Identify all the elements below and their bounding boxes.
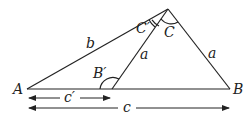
triangle-diagram: A B b a a C′ C B′ c′ c	[0, 0, 252, 119]
angle-arc-c-prime	[149, 20, 155, 27]
dimension-label-c-prime: c′	[64, 89, 76, 105]
vertex-label-b: B	[232, 81, 243, 97]
angle-label-c: C	[164, 24, 175, 40]
side-a-outer	[168, 9, 230, 89]
dimension-label-c: c	[123, 99, 131, 115]
side-label-a-inner: a	[140, 46, 148, 62]
angle-label-b-prime: B′	[92, 65, 107, 81]
side-label-b: b	[86, 35, 95, 51]
vertex-label-a: A	[11, 81, 23, 97]
angle-label-c-prime: C′	[136, 20, 151, 36]
side-label-a-outer: a	[208, 45, 216, 61]
